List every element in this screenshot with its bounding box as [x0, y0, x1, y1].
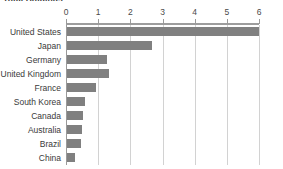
category-label: China	[39, 151, 61, 165]
x-axis-tick-label: 0	[64, 7, 69, 17]
x-axis-tick-mark	[98, 19, 99, 24]
bar	[67, 69, 109, 78]
x-axis-tick-mark	[195, 19, 196, 24]
x-axis-tick-label: 3	[160, 7, 165, 17]
bar	[67, 153, 75, 162]
bar	[67, 55, 107, 64]
bar-chart: Total Holdings 0123456 United StatesJapa…	[0, 0, 283, 169]
chart-row: Germany	[66, 53, 259, 67]
bar	[67, 97, 85, 106]
bar	[67, 125, 82, 134]
bar	[67, 111, 83, 120]
chart-row: United Kingdom	[66, 67, 259, 81]
category-label: South Korea	[14, 95, 61, 109]
bar	[67, 139, 81, 148]
x-axis-tick-label: 6	[257, 7, 262, 17]
x-axis-tick-mark	[259, 19, 260, 24]
chart-row: Canada	[66, 109, 259, 123]
category-label: France	[35, 81, 61, 95]
x-axis-tick-mark	[66, 19, 67, 24]
chart-row: Japan	[66, 39, 259, 53]
x-axis-tick-label: 1	[96, 7, 101, 17]
category-label: Japan	[38, 39, 61, 53]
category-label: United Kingdom	[1, 67, 61, 81]
bar	[67, 41, 152, 50]
bar	[67, 83, 96, 92]
x-axis-tick-label: 4	[192, 7, 197, 17]
bar	[67, 27, 259, 36]
category-label: Germany	[26, 53, 61, 67]
gridline	[259, 25, 260, 165]
chart-title: Total Holdings	[3, 0, 63, 1]
category-label: United States	[10, 25, 61, 39]
x-axis-tick-mark	[163, 19, 164, 24]
chart-row: South Korea	[66, 95, 259, 109]
chart-row: France	[66, 81, 259, 95]
chart-row: Brazil	[66, 137, 259, 151]
chart-row: China	[66, 151, 259, 165]
x-axis-tick-label: 2	[128, 7, 133, 17]
x-axis-tick-mark	[227, 19, 228, 24]
chart-row: Australia	[66, 123, 259, 137]
x-axis-tick-label: 5	[224, 7, 229, 17]
category-label: Australia	[28, 123, 61, 137]
chart-row: United States	[66, 25, 259, 39]
plot-area: United StatesJapanGermanyUnited KingdomF…	[66, 25, 259, 165]
category-label: Canada	[31, 109, 61, 123]
x-axis-tick-mark	[130, 19, 131, 24]
category-label: Brazil	[40, 137, 61, 151]
